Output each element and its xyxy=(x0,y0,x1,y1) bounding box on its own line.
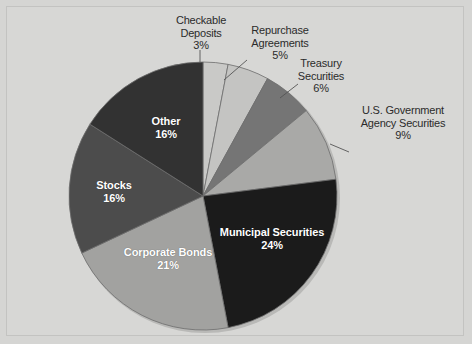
label-checkable-deposits: Checkable Deposits 3% xyxy=(158,14,244,52)
label-treasury-securities: Treasury Securities 6% xyxy=(282,57,360,95)
label-other: Other 16% xyxy=(128,115,204,141)
label-us-government-agency-securities: U.S. Government Agency Securities 9% xyxy=(340,104,466,142)
label-corporate-bonds: Corporate Bonds 21% xyxy=(110,246,226,272)
label-stocks: Stocks 16% xyxy=(76,179,152,205)
leader-line-us-gov-agency xyxy=(330,144,349,152)
label-repurchase-agreements: Repurchase Agreements 5% xyxy=(234,24,326,62)
